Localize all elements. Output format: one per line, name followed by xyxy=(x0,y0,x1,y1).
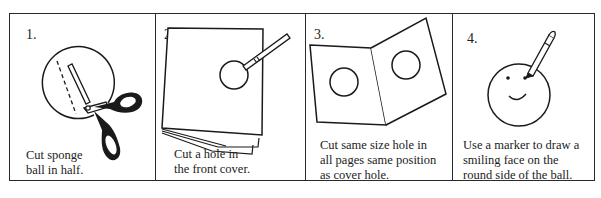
step-caption: Cut same size hole in all pages same pos… xyxy=(320,138,436,183)
caption-line: Cut sponge xyxy=(26,148,83,163)
caption-line: round side of the ball. xyxy=(463,168,579,183)
step-caption: Cut sponge ball in half. xyxy=(26,148,83,178)
step-panel-4: 4. Use a marker to draw a smiling face o… xyxy=(453,14,595,180)
caption-line: Cut same size hole in xyxy=(320,138,436,153)
caption-line: Cut a hole in xyxy=(174,147,250,162)
step-panel-3: 3. Cut same size hole in all pages same … xyxy=(306,14,452,180)
caption-line: the front cover. xyxy=(174,162,250,177)
caption-line: ball in half. xyxy=(26,163,83,178)
caption-line: all pages same position xyxy=(320,153,436,168)
caption-line: Use a marker to draw a xyxy=(463,138,579,153)
caption-line: smiling face on the xyxy=(463,153,579,168)
step-panel-1: 1. Cut sponge ball in half. xyxy=(10,14,155,180)
caption-line: as cover hole. xyxy=(320,168,436,183)
step-caption: Use a marker to draw a smiling face on t… xyxy=(463,138,579,183)
step-panel-2: 2. Cut a hole in the front cover. xyxy=(156,14,305,180)
step-caption: Cut a hole in the front cover. xyxy=(174,147,250,177)
